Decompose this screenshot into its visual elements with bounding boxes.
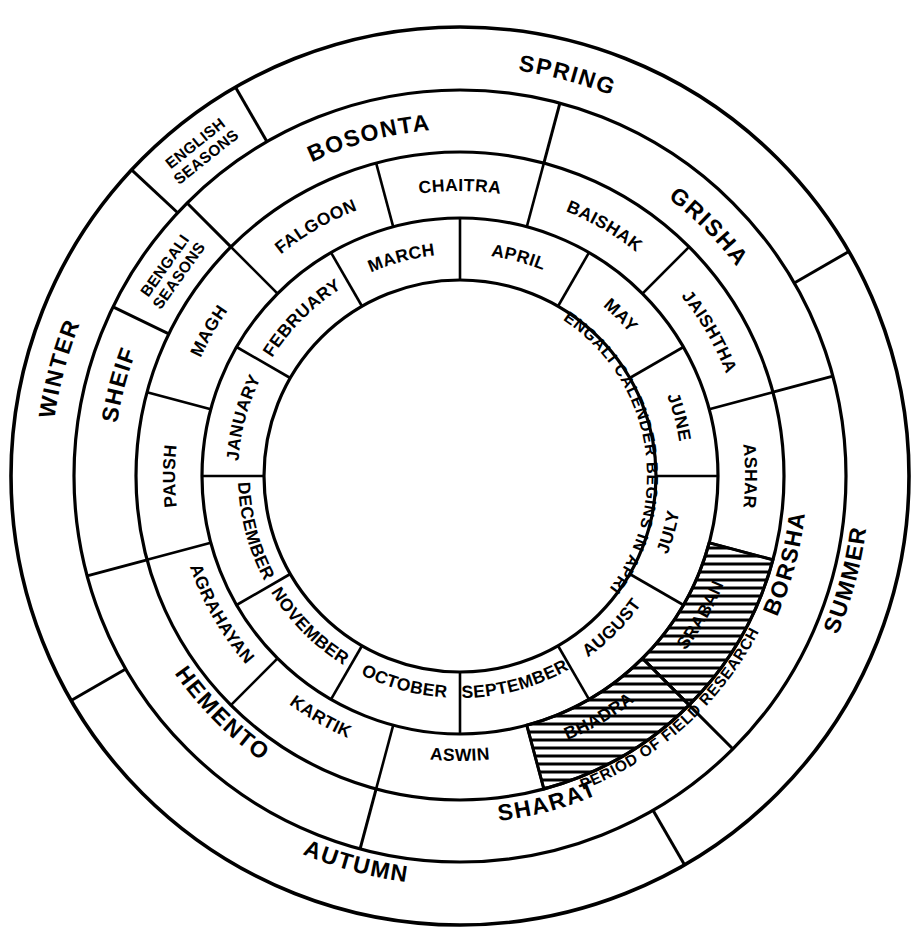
- bengali-month-label: PAUSH: [159, 444, 181, 509]
- bengali-month-label: CHAITRA: [417, 175, 502, 198]
- bengali-month-label: ASHAR: [739, 442, 761, 509]
- bengali-month-label: ASWIN: [430, 744, 491, 766]
- calendar-wheel-diagram: APRILMAYJUNEJULYAUGUSTSEPTEMBEROCTOBERNO…: [0, 0, 923, 948]
